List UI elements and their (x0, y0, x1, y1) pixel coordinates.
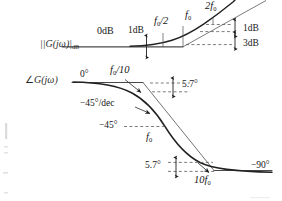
ten-f0-label: 10f0 (194, 175, 211, 186)
magnitude-axis-label-text: |G(jω)| (43, 38, 72, 49)
five-point-seven-bottom-label: 5.7° (145, 161, 161, 171)
five-point-seven-top-label: 5.7° (182, 80, 198, 90)
f0-over-2-label: f0/2 (154, 16, 168, 27)
scan-artifacts (3, 123, 270, 198)
zero-degree-label: 0° (80, 70, 89, 80)
two-f0-label: 2f0 (205, 1, 216, 12)
phase-axis-label-text: G(jω) (34, 74, 58, 85)
one-db-right-label: 1dB (243, 24, 259, 34)
minus-45-label: −45° (99, 121, 118, 131)
magnitude-curve (130, 0, 235, 46)
leader-slope (135, 107, 150, 114)
magnitude-axis-label-sub: dB (72, 43, 79, 50)
angle-icon: ∠ (25, 74, 34, 85)
one-db-left-label: 1dB (128, 26, 144, 36)
phase-axis-label: ∠G(jω) (25, 75, 58, 85)
minus-90-label: −90° (251, 161, 270, 171)
f0-magnitude-label: f0 (185, 10, 191, 21)
zero-db-label: 0dB (97, 26, 114, 36)
slope-label: −45°/dec (80, 99, 114, 109)
f0-over-10-label: f0/10 (110, 65, 130, 76)
magnitude-axis-label: ||G(jω)|dB (40, 39, 79, 50)
f0-phase-label: f0 (146, 132, 152, 143)
magnitude-plot-group (62, 0, 266, 58)
three-db-label: 3dB (243, 39, 259, 49)
